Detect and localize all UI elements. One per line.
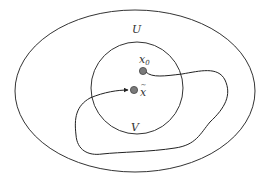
- label-x0: x0: [139, 53, 150, 67]
- point-x-tilde: [130, 86, 137, 93]
- label-v: V: [131, 121, 140, 134]
- label-x-tilde-accent: ~: [141, 81, 147, 89]
- point-x0: [139, 67, 146, 74]
- diagram-canvas: U V x0 x ~: [0, 0, 267, 183]
- label-u: U: [132, 23, 142, 36]
